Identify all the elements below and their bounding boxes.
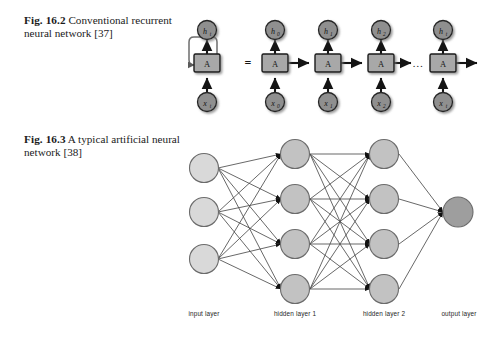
rnn-cell-label: A (272, 59, 279, 69)
rnn-input-node-sub: 2 (383, 103, 386, 109)
rnn-input-node (266, 93, 285, 112)
node-hidden1-2 (281, 185, 310, 214)
equals-sign: = (245, 56, 252, 70)
rnn-output-node-sub: 1 (330, 31, 333, 37)
figure-16-2-diagram: A h t x t = A h 0 (185, 6, 485, 118)
figure-16-3-caption: Fig. 16.3 A typical artificial neural ne… (24, 133, 189, 160)
edges-hidden2-to-output (399, 154, 443, 289)
rnn-input-node-sub: 0 (277, 103, 280, 109)
rnn-output-node-label: h (203, 27, 207, 36)
rnn-input-node (372, 93, 391, 112)
rnn-unrolled-unit-1: A h 1 x 1 (315, 21, 362, 112)
rnn-output-node-label: h (439, 27, 443, 36)
rnn-output-node-sub: 2 (383, 31, 386, 37)
rnn-input-node-label: x (270, 99, 275, 108)
rnn-input-node-label: x (323, 99, 328, 108)
rnn-input-node (319, 93, 338, 112)
rnn-unrolled-unit-0: A h 0 x 0 (262, 21, 309, 112)
rnn-input-node-label: x (438, 99, 443, 108)
rnn-input-node (198, 93, 217, 112)
node-hidden2-1 (370, 140, 399, 169)
node-hidden1-1 (281, 140, 310, 169)
rnn-cell-label: A (325, 59, 332, 69)
rnn-output-node-label: h (271, 27, 275, 36)
rnn-cell-label: A (378, 59, 385, 69)
rnn-output-node (266, 21, 285, 40)
rnn-output-node (372, 21, 391, 40)
figure-16-3-label: Fig. 16.3 (24, 133, 66, 145)
edges-input-to-hidden1 (218, 154, 281, 289)
rnn-output-node-sub: 0 (277, 31, 280, 37)
rnn-input-node-label: x (202, 99, 207, 108)
figure-16-2-caption: Fig. 16.2 Conventional recurrent neural … (24, 14, 189, 41)
rnn-cell-label: A (440, 59, 447, 69)
edges-hidden1-to-hidden2 (310, 154, 370, 289)
node-input-1 (190, 154, 219, 183)
rnn-output-node (319, 21, 338, 40)
rnn-unrolled-unit-2: A h 2 x 2 (368, 21, 411, 112)
hidden-layer-2-nodes (370, 140, 399, 304)
layer-label-hidden-1: hidden layer 1 (263, 310, 327, 317)
figure-page: Fig. 16.2 Conventional recurrent neural … (0, 0, 491, 352)
rnn-output-node (434, 21, 453, 40)
node-hidden1-3 (281, 230, 310, 259)
rnn-input-node (434, 93, 453, 112)
input-layer-nodes (190, 154, 219, 274)
rnn-output-node (198, 21, 217, 40)
node-output-1 (443, 197, 473, 227)
figure-16-3-diagram: input layer hidden layer 1 hidden layer … (178, 132, 486, 327)
output-layer-nodes (443, 197, 473, 227)
node-hidden1-4 (281, 275, 310, 304)
node-input-2 (190, 198, 219, 227)
sequence-ellipsis: … (412, 57, 424, 69)
rnn-cell-label: A (204, 59, 211, 69)
rnn-input-node-sub: 1 (330, 103, 333, 109)
layer-label-input: input layer (172, 310, 236, 317)
node-hidden2-3 (370, 230, 399, 259)
node-input-3 (190, 245, 219, 274)
node-hidden2-2 (370, 185, 399, 214)
rnn-output-node-label: h (324, 27, 328, 36)
rnn-input-node-label: x (376, 99, 381, 108)
hidden-layer-1-nodes (281, 140, 310, 304)
rnn-folded-unit: A h t x t (189, 21, 220, 112)
rnn-unrolled-unit-last: A h t x t (430, 21, 477, 112)
figure-16-2-label: Fig. 16.2 (24, 14, 66, 26)
node-hidden2-4 (370, 275, 399, 304)
layer-label-hidden-2: hidden layer 2 (352, 310, 416, 317)
rnn-output-node-label: h (377, 27, 381, 36)
layer-label-output: output layer (427, 310, 491, 317)
